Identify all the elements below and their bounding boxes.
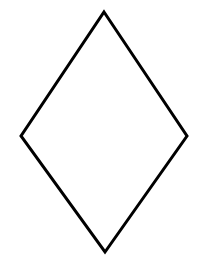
image-canvas — [0, 0, 201, 259]
background-rect — [0, 0, 201, 259]
line-drawing-svg — [0, 0, 201, 259]
